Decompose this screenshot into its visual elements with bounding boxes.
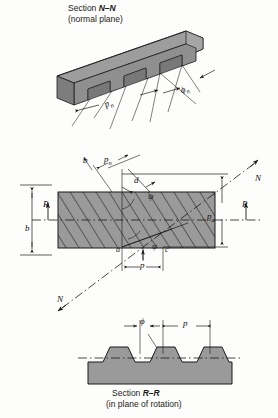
middle-view-point-a-label: a	[116, 246, 120, 254]
middle-view-rotation-axis-left-label: R	[43, 200, 49, 209]
middle-view-normal-axis-upper-label: N	[255, 174, 261, 183]
middle-view-tooth-thickness-label: d	[134, 176, 139, 185]
middle-view-face-width-top-label: b	[83, 156, 88, 165]
middle-view-rotation-axis-right-label: R	[242, 200, 248, 209]
top-view-drawing	[0, 0, 278, 140]
bottom-view-pressure-angle-label: ϕ	[140, 317, 145, 326]
figure-canvas: Section N–N (normal plane)	[0, 0, 278, 418]
bottom-view-circular-pitch-label: p	[183, 319, 188, 328]
bottom-view-caption-id: R–R	[143, 388, 160, 398]
bottom-view-tooth-profile	[88, 347, 232, 384]
middle-view-face-width-left-label: b	[25, 224, 30, 233]
middle-view-axial-pitch-label: pa	[207, 212, 215, 223]
middle-view-normal-axis-lower-label: N	[57, 295, 63, 304]
bottom-view-caption-line1: Section R–R	[112, 388, 160, 399]
bottom-view-caption-word: Section	[112, 388, 140, 398]
middle-view-normal-pitch-label: pn	[104, 155, 112, 166]
middle-view-circular-pitch-label: p	[140, 261, 145, 270]
bottom-view-caption-line2: (in plane of rotation)	[106, 399, 182, 410]
middle-view-drawing	[0, 143, 278, 313]
middle-view-point-c-label: c	[165, 246, 169, 254]
middle-view-helix-angle-label: ψ	[148, 192, 154, 201]
middle-view-helix-angle-inner-label: ψ	[152, 243, 157, 251]
